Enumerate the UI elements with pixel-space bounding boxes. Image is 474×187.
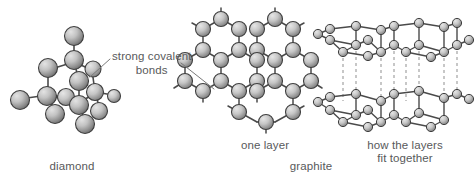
- graphite-top-layer: [313, 18, 473, 61]
- graphene-atoms: [178, 12, 319, 130]
- caption-how-layers-line-1: how the layers: [367, 139, 443, 151]
- graphite-stack-structure: [313, 18, 473, 131]
- caption-how-layers-fit-together: how the layers fit together: [367, 139, 443, 165]
- annotation-line-2: bonds: [112, 63, 192, 77]
- annotation-line-1: strong covalent: [112, 50, 192, 62]
- diamond-atoms: [11, 27, 121, 134]
- carbon-allotropes-figure: strong covalent bonds diamond one layer …: [0, 0, 474, 187]
- caption-diamond: diamond: [50, 160, 95, 173]
- diamond-structure: [11, 27, 121, 134]
- graphite-bottom-layer: [313, 86, 473, 131]
- graphene-layer-structure: [174, 8, 322, 133]
- caption-one-layer: one layer: [241, 139, 289, 152]
- caption-graphite: graphite: [290, 160, 332, 173]
- annotation-strong-covalent-bonds: strong covalent bonds: [112, 49, 192, 77]
- caption-how-layers-line-2: fit together: [377, 152, 433, 164]
